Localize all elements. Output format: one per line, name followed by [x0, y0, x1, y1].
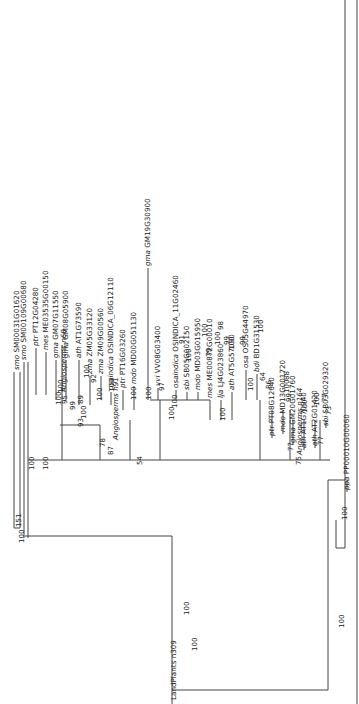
taxon-label: mdo MD00G051130 [130, 312, 137, 384]
bootstrap-value: 79 [206, 348, 213, 357]
gene-id: OS05G44970 [241, 305, 250, 355]
species-code: sbi [321, 416, 330, 426]
bootstrap-value: 100 [29, 457, 36, 470]
gene-id: PP00010G00060 [342, 414, 351, 476]
bootstrap-value: 97 [159, 382, 166, 391]
bootstrap-value: 100 [229, 337, 236, 350]
bootstrap-value: 98 [218, 321, 225, 330]
gene-id: ZM09G00560 [96, 308, 105, 359]
species-code: mdo [278, 416, 287, 432]
species-code: bdi [252, 361, 261, 372]
bootstrap-value: 86 [266, 380, 273, 389]
bootstrap-value: 77 [322, 393, 329, 402]
taxon-label: osaindica OSINDICA_06G12110 [107, 277, 114, 390]
gene-id: MD00G051130 [129, 312, 138, 368]
bootstrap-value: 78 [100, 438, 107, 447]
taxon-label: ptr PT12G04280 [32, 287, 39, 346]
root-label: LandPlants n309 [170, 640, 177, 700]
gene-id: PT12G04280 [31, 287, 40, 336]
bootstrap-value: 73 [326, 406, 333, 415]
gene-id: VV08G03400 [153, 326, 162, 376]
bootstrap-value: 100 [284, 380, 291, 393]
bootstrap-value: 77 [318, 436, 325, 445]
gene-id: OSINDICA_06G12110 [106, 277, 115, 356]
bootstrap-value: 100 [186, 349, 193, 362]
bootstrap-value: 100 [202, 324, 209, 337]
gene-id: PT16G03260 [118, 329, 127, 378]
bootstrap-value: 54 [137, 456, 144, 465]
species-code: osaindica [171, 354, 180, 388]
bootstrap-value: 151 [16, 514, 23, 527]
taxon-label: zma ZM09G00560 [97, 308, 104, 374]
species-code: zma [96, 359, 105, 374]
taxon-label: lja LJ4G023860 [217, 344, 224, 398]
bootstrap-value: 89 [78, 395, 85, 404]
bootstrap-value: 92 [91, 374, 98, 383]
bootstrap-value: 100 [248, 378, 255, 391]
taxon-label: osaindica OSINDICA_11G02460 [172, 275, 179, 388]
bootstrap-value: 100 [302, 400, 309, 413]
taxon-label: ath AT1G73590 [75, 302, 82, 358]
gene-id: GM19G30900 [143, 198, 152, 250]
bootstrap-value: 77 [288, 442, 295, 451]
bootstrap-value: 100 [19, 530, 26, 543]
species-code: gma [143, 250, 152, 266]
bootstrap-value: 100 [131, 387, 138, 400]
bootstrap-value: 93 [78, 418, 85, 427]
bootstrap-value: 100 [97, 388, 104, 401]
bootstrap-value: 100 [169, 407, 176, 420]
species-code: sbi [182, 380, 191, 390]
bootstrap-value: 100 [192, 638, 199, 651]
gene-id: SM00109G00680 [19, 280, 28, 344]
bootstrap-value: 100 [43, 457, 50, 470]
species-code: ptr [31, 336, 40, 346]
bootstrap-value: 99 [286, 393, 293, 402]
gene-id: ZM05G33120 [85, 308, 94, 359]
bootstrap-value: 100 [342, 507, 349, 520]
bootstrap-value: 100 [146, 387, 153, 400]
species-code: mes [41, 335, 50, 350]
species-code: mdo [129, 368, 138, 384]
bootstrap-value: 95 [62, 395, 69, 404]
bootstrap-value: 100 [314, 393, 321, 406]
bootstrap-value: 87 [108, 446, 115, 455]
bootstrap-value: 99 [240, 336, 247, 345]
species-code: ppa [342, 476, 351, 490]
species-code: ath [227, 378, 236, 390]
bootstrap-value: 100 [258, 320, 265, 333]
bootstrap-value: 75 [296, 456, 303, 465]
species-code: lja [216, 390, 225, 398]
gene-id: ME03535G00150 [41, 271, 50, 335]
species-code: mdo [193, 374, 202, 390]
taxon-label: ppa PP00010G00060 [343, 414, 350, 490]
bootstrap-value: 100 [58, 380, 65, 393]
species-code: mes [205, 383, 214, 398]
species-code: smo [19, 345, 28, 360]
clade-label: Angiosperms n164 [296, 388, 303, 455]
bootstrap-value: 100 [109, 379, 116, 392]
gene-id: AT1G73590 [74, 302, 83, 346]
taxon-label: gma GM19G30900 [144, 198, 151, 266]
bootstrap-value: 100 [220, 408, 227, 421]
bootstrap-value: 100 [81, 406, 88, 419]
bootstrap-value: 91 [179, 335, 186, 344]
taxon-label: vvi VV08G03400 [154, 326, 161, 386]
bootstrap-value: 100 [215, 332, 222, 345]
species-code: ptr [267, 426, 276, 436]
gene-id: LJ4G023860 [216, 344, 225, 390]
bootstrap-value: 100 [184, 602, 191, 615]
species-code: ath [74, 346, 83, 358]
taxon-label: smo SM00109G00680 [20, 280, 27, 360]
species-code: osa [241, 355, 250, 368]
bootstrap-value: 99 [70, 401, 77, 410]
taxon-label: mes ME03535G00150 [42, 271, 49, 351]
taxon-label: ptr PT16G03260 [119, 329, 126, 388]
bootstrap-value: 100 [339, 615, 346, 628]
